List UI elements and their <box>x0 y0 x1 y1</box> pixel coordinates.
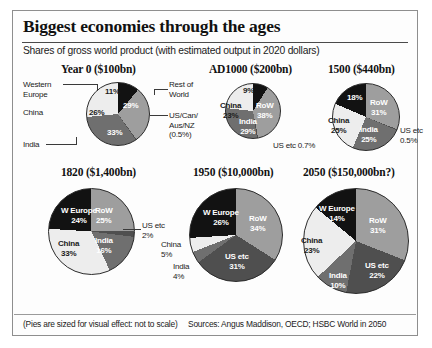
callout-line-1: US/Can/ <box>169 111 198 120</box>
slice-label-row-pct: 25% <box>96 216 111 225</box>
slice-label-china-pct: 23% <box>223 111 238 120</box>
slice-label-china: China 25% <box>328 116 349 135</box>
chart-title-1950: 1950 ($10,000bn) <box>193 166 274 178</box>
pie-1820 <box>48 188 135 275</box>
callout-china: China 5% <box>161 240 181 259</box>
callout-china-pct: 5% <box>161 250 172 259</box>
slice-label-china-name: China <box>58 239 79 248</box>
slice-label-us-etc: US etc 22% <box>365 261 389 280</box>
chart-panel-year-0: Year 0 ($100bn) 11% 29% 33% 26% Western … <box>13 63 213 168</box>
slice-label-india-pct: 16% <box>96 246 111 255</box>
slice-label-us-name: US etc <box>225 252 249 261</box>
slice-label-china: China 23% <box>220 101 241 120</box>
footer-note: (Pies are sized for visual effect: not t… <box>23 319 178 329</box>
callout-india-name: India <box>173 262 189 271</box>
slice-label-we-pct: 24% <box>71 216 86 225</box>
leader-line-western-europe <box>63 84 97 85</box>
slice-label-china-pct: 26% <box>89 108 104 118</box>
callout-line-2: Aus/NZ <box>169 121 194 130</box>
slice-label-we-pct: 26% <box>213 218 228 227</box>
slice-label-we: W Europe 26% <box>203 208 239 227</box>
leader-tick-india <box>76 137 77 145</box>
leader-tick-western-europe <box>97 84 98 91</box>
chart-panel-1500: 1500 ($440bn) 18% RoW 31% India 25% Chin… <box>320 63 432 168</box>
slice-label-row-pct: 38% <box>257 111 272 120</box>
slice-label-we: W Europe 14% <box>319 204 355 223</box>
slice-label-us-pct: 31% <box>229 262 244 271</box>
callout-india: India <box>23 140 39 150</box>
callout-us-pct: 0.5% <box>400 136 417 145</box>
slice-label-we-name: W Europe <box>61 206 97 215</box>
callout-china: China <box>23 108 43 118</box>
chart-panel-2050: 2050 ($150,000bn?) W Europe 14% RoW 31% … <box>285 166 420 316</box>
title-divider <box>22 42 408 43</box>
slice-label-china-pct: 33% <box>61 249 76 258</box>
chart-title-1820: 1820 ($1,400bn) <box>61 166 136 178</box>
infographic-frame: Biggest economies through the ages Share… <box>12 10 418 336</box>
callout-line-1: Western <box>23 80 51 89</box>
slice-label-india-pct: 29% <box>240 127 255 136</box>
callout-us-etc: US etc 0.7% <box>273 141 315 151</box>
slice-label-we-pct: 9% <box>243 86 254 96</box>
leader-line-india <box>46 144 76 145</box>
slice-label-india: India 16% <box>95 236 113 255</box>
callout-china-name: China <box>161 240 181 249</box>
footer-sources: Sources: Angus Maddison, OECD; HSBC Worl… <box>188 319 386 329</box>
callout-us-can-aus-nz: US/Can/ Aus/NZ (0.5%) <box>169 111 198 140</box>
slice-label-we-pct: 14% <box>329 214 344 223</box>
slice-label-we-name: W Europe <box>203 208 239 217</box>
slice-label-us-pct: 22% <box>369 271 384 280</box>
slice-label-row-name: RoW <box>370 98 388 107</box>
callout-line-1: Rest of <box>169 80 193 89</box>
slice-label-row: RoW 38% <box>256 101 274 120</box>
slice-label-row: RoW 31% <box>369 216 387 235</box>
callout-us-name: US etc <box>400 126 423 135</box>
chart-title-ad1000: AD1000 ($200bn) <box>209 63 292 75</box>
slice-label-china-pct: 23% <box>304 246 319 255</box>
page-subtitle: Shares of gross world product (with esti… <box>23 45 319 56</box>
slice-label-india-pct: 33% <box>107 128 122 138</box>
slice-label-china: China 23% <box>301 236 322 255</box>
callout-rest-of-world: Rest of World <box>169 80 193 99</box>
slice-label-india-pct: 25% <box>361 135 376 144</box>
slice-label-china-pct: 25% <box>331 126 346 135</box>
slice-label-india-pct: 10% <box>330 281 345 290</box>
callout-us-etc: US etc 0.5% <box>400 126 423 145</box>
slice-label-india: India 10% <box>329 271 347 290</box>
slice-label-row: RoW 34% <box>249 214 267 233</box>
slice-label-row: RoW 31% <box>370 98 388 117</box>
slice-label-india-name: India <box>329 271 347 280</box>
slice-label-we-pct: 11% <box>105 87 120 97</box>
callout-india: India 4% <box>173 262 189 281</box>
callout-india-pct: 4% <box>173 272 184 281</box>
slice-label-row-name: RoW <box>369 216 387 225</box>
chart-title-2050: 2050 ($150,000bn?) <box>303 166 395 178</box>
leader-line-rest-of-world <box>154 89 168 90</box>
slice-label-row: RoW 25% <box>95 206 113 225</box>
slice-label-us-etc: US etc 31% <box>225 252 249 271</box>
chart-title-year-0: Year 0 ($100bn) <box>61 63 136 75</box>
slice-label-us-name: US etc <box>365 261 389 270</box>
slice-label-row-pct: 34% <box>250 224 265 233</box>
footer-divider <box>14 314 416 315</box>
slice-label-we-name: W Europe <box>319 204 355 213</box>
slice-label-india: India 29% <box>239 117 257 136</box>
slice-label-india-name: India <box>360 125 378 134</box>
slice-label-row-pct: 31% <box>371 108 386 117</box>
slice-label-row-pct: 29% <box>123 101 138 111</box>
slice-label-row-name: RoW <box>249 214 267 223</box>
page-title: Biggest economies through the ages <box>23 16 280 37</box>
slice-label-india-name: India <box>95 236 113 245</box>
leader-line-us-etc <box>123 229 141 230</box>
chart-panel-ad1000: AD1000 ($200bn) 9% RoW 38% India 29% Chi… <box>199 63 329 168</box>
callout-line-3: (0.5%) <box>169 130 191 139</box>
slice-label-china-name: China <box>220 101 241 110</box>
slice-label-china: China 33% <box>58 239 79 258</box>
slice-label-row-name: RoW <box>256 101 274 110</box>
slice-label-we: W Europe 24% <box>61 206 97 225</box>
slice-label-china-name: China <box>301 236 322 245</box>
slice-label-row-pct: 31% <box>370 226 385 235</box>
callout-line-2: World <box>169 90 189 99</box>
slice-label-row-name: RoW <box>95 206 113 215</box>
slice-label-india: India 25% <box>360 125 378 144</box>
